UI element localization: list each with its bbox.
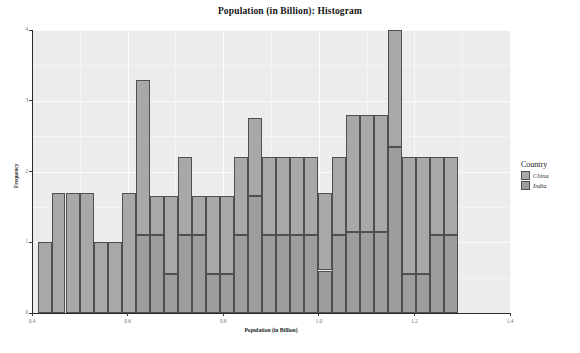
legend-item[interactable]: China — [521, 171, 577, 180]
histogram-bar-segment — [360, 232, 374, 313]
y-tick-label: 1 — [12, 238, 28, 244]
histogram-bar-segment — [150, 196, 164, 235]
histogram-bar-segment — [332, 157, 346, 235]
histogram-bar-segment — [178, 235, 192, 313]
y-tick-label: 0 — [12, 309, 28, 315]
histogram-bar-segment — [346, 115, 360, 232]
histogram-bar-segment — [360, 115, 374, 232]
histogram-bar-segment — [304, 235, 318, 313]
histogram-bar-segment — [220, 274, 234, 313]
histogram-bar-segment — [290, 157, 304, 235]
histogram-bar-segment — [374, 232, 388, 313]
histogram-bar-segment — [220, 196, 234, 274]
legend-swatch — [521, 181, 530, 190]
histogram-bar-segment — [234, 235, 248, 313]
y-tick — [29, 100, 32, 101]
histogram-bar-segment — [374, 115, 388, 232]
x-tick — [127, 313, 128, 316]
histogram-bar-segment — [122, 193, 136, 313]
histogram-bar-segment — [318, 271, 332, 313]
histogram-bar-segment — [52, 193, 66, 313]
histogram-bar-segment — [248, 196, 262, 313]
histogram-bar-segment — [388, 147, 402, 313]
legend: Country ChinaIndia — [521, 160, 577, 191]
x-tick-label: 0.6 — [116, 318, 140, 324]
histogram-bar-segment — [346, 232, 360, 313]
histogram-bar-segment — [290, 235, 304, 313]
histogram-bar-segment — [150, 235, 164, 313]
histogram-bar-segment — [66, 193, 80, 313]
histogram-bar-segment — [416, 274, 430, 313]
histogram-bar-segment — [234, 157, 248, 235]
histogram-bar-segment — [402, 274, 416, 313]
histogram-bar-segment — [430, 235, 444, 313]
histogram-bar-segment — [332, 235, 346, 313]
histogram-bar-segment — [206, 274, 220, 313]
histogram-bar-segment — [94, 242, 108, 313]
histogram-bar-segment — [318, 193, 332, 271]
histogram-bar-segment — [276, 157, 290, 235]
x-tick — [223, 313, 224, 316]
x-tick — [414, 313, 415, 316]
x-tick-label: 0.4 — [20, 318, 44, 324]
histogram-bar-segment — [276, 235, 290, 313]
bars-layer — [32, 30, 510, 313]
histogram-bar-segment — [444, 235, 458, 313]
x-tick-label: 1.2 — [402, 318, 426, 324]
y-axis-label: Frequency — [13, 163, 19, 187]
histogram-bar-segment — [192, 196, 206, 235]
x-axis-label: Population (in Billion) — [32, 327, 510, 333]
histogram-bar-segment — [178, 157, 192, 235]
histogram-bar-segment — [304, 157, 318, 235]
histogram-bar-segment — [248, 118, 262, 196]
plot-panel — [32, 30, 510, 313]
histogram-bar-segment — [164, 274, 178, 313]
gridline-v — [510, 30, 511, 313]
y-tick — [29, 30, 32, 31]
x-tick-label: 1.4 — [498, 318, 522, 324]
histogram-bar-segment — [262, 157, 276, 235]
histogram-bar-segment — [444, 157, 458, 235]
legend-entries: ChinaIndia — [521, 171, 577, 190]
x-axis-line — [32, 313, 510, 314]
legend-title: Country — [521, 160, 577, 169]
x-tick — [318, 313, 319, 316]
y-tick — [29, 171, 32, 172]
x-tick — [32, 313, 33, 316]
chart-root: Population (in Billion): Histogram 01234… — [0, 0, 580, 353]
legend-swatch — [521, 171, 530, 180]
histogram-bar-segment — [192, 235, 206, 313]
histogram-bar-segment — [430, 157, 444, 235]
y-tick — [29, 242, 32, 243]
histogram-bar-segment — [262, 235, 276, 313]
y-tick-label: 3 — [12, 97, 28, 103]
histogram-bar-segment — [38, 242, 52, 313]
histogram-bar-segment — [402, 157, 416, 274]
histogram-bar-segment — [136, 80, 150, 236]
x-tick-label: 0.8 — [211, 318, 235, 324]
histogram-bar-segment — [206, 196, 220, 274]
legend-item[interactable]: India — [521, 181, 577, 190]
legend-label: China — [533, 172, 549, 179]
histogram-bar-segment — [164, 196, 178, 274]
histogram-bar-segment — [136, 235, 150, 313]
histogram-bar-segment — [388, 30, 402, 147]
x-tick-label: 1.0 — [307, 318, 331, 324]
y-tick-label: 4 — [12, 26, 28, 32]
histogram-bar-segment — [80, 193, 94, 313]
x-tick — [510, 313, 511, 316]
histogram-bar-segment — [416, 157, 430, 274]
histogram-bar-segment — [108, 242, 122, 313]
chart-title: Population (in Billion): Histogram — [0, 6, 580, 16]
legend-label: India — [533, 182, 547, 189]
